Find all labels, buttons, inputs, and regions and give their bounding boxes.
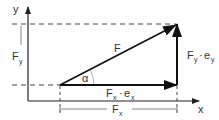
svg-text:e: e [204,49,210,61]
fy-component-label: F y · e y [187,49,215,64]
fx-component-label: F x · e x [106,87,135,101]
angle-arc [91,71,95,86]
f-vector-label: F [114,42,121,54]
svg-text:·: · [119,87,123,99]
x-axis-label: x [198,103,204,115]
fy-dimension-label: F y [12,50,23,66]
svg-text:F: F [187,49,194,61]
y-axis-label: y [13,3,19,15]
fx-dimension-label: F x [112,103,123,117]
svg-text:F: F [112,103,119,115]
svg-text:x: x [119,110,123,117]
svg-text:F: F [106,87,113,99]
svg-text:x: x [131,94,135,101]
svg-text:y: y [19,58,23,66]
angle-label: α [82,72,89,84]
svg-text:e: e [124,87,130,99]
svg-text:y: y [211,56,215,64]
svg-text:·: · [199,49,203,61]
svg-text:F: F [12,50,19,62]
f-vector-arrow [60,25,176,85]
svg-text:y: y [194,56,198,64]
svg-text:x: x [113,94,117,101]
force-diagram: y x F α F x · e x F y · e y F x F y [0,0,219,120]
